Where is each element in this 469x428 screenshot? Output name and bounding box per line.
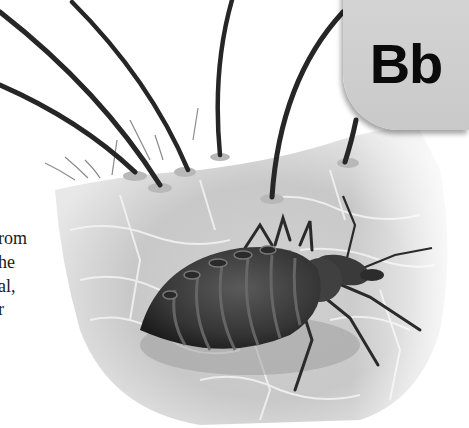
cut-off-text-line-4: r bbox=[0, 300, 4, 318]
letter-badge-text: Bb bbox=[370, 36, 443, 92]
cut-off-text-line-1: rom bbox=[0, 229, 27, 247]
cut-off-text-line-2: he bbox=[0, 253, 15, 271]
cut-off-text-line-3: al, bbox=[0, 277, 16, 295]
letter-badge: Bb bbox=[343, 0, 469, 130]
